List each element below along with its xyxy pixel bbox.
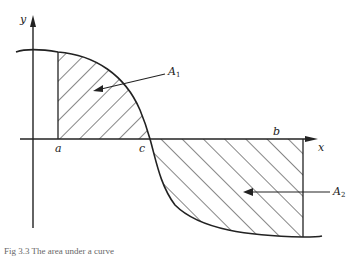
area-a1-subscript: 1 [176, 71, 180, 79]
area-a2-name: A [333, 185, 341, 198]
point-b-label: b [273, 126, 280, 137]
x-axis-arrow-icon [305, 136, 318, 142]
area-a2-label: A2 [333, 186, 345, 199]
y-axis-label: y [20, 14, 26, 25]
point-c-label: c [139, 143, 145, 154]
x-axis-label: x [318, 142, 324, 153]
area-a1-name: A [168, 65, 176, 78]
area-a2-subscript: 2 [341, 191, 345, 199]
y-axis-arrow-icon [30, 15, 36, 27]
area-a1-label: A1 [168, 66, 180, 79]
point-a-label: a [55, 143, 62, 154]
figure-caption: Fig 3.3 The area under a curve [4, 246, 114, 256]
